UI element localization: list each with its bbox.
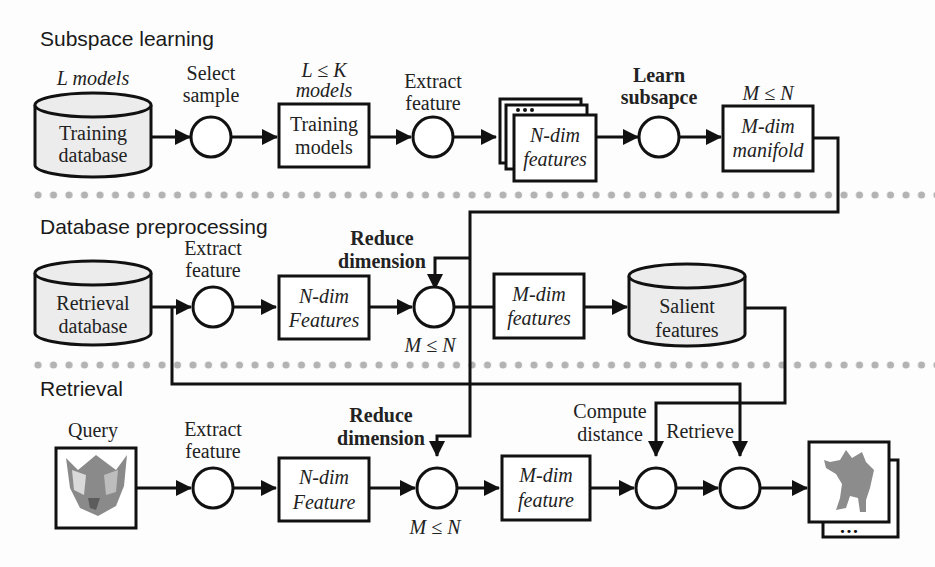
svg-text:L ≤ K: L ≤ K xyxy=(300,59,348,81)
mdim-manifold-box: M ≤ N M-dim manifold xyxy=(723,82,813,171)
select-sample-node: Select sample xyxy=(183,62,240,157)
svg-text:dimension: dimension xyxy=(338,250,426,272)
svg-text:N-dim: N-dim xyxy=(298,285,349,307)
retrieve-node: Retrieve xyxy=(666,420,760,508)
training-models-box: L ≤ K models Training models xyxy=(279,59,369,167)
svg-text:M ≤ N: M ≤ N xyxy=(742,82,796,104)
svg-text:Extract: Extract xyxy=(404,70,462,92)
extract-feature-node-2: Extract feature xyxy=(184,237,242,327)
svg-text:feature: feature xyxy=(185,259,241,281)
svg-text:Retrieve: Retrieve xyxy=(666,420,734,442)
retrieval-database: Retrieval database xyxy=(35,261,151,345)
svg-text:M ≤ N: M ≤ N xyxy=(409,516,463,538)
svg-text:Extract: Extract xyxy=(184,237,242,259)
svg-text:M-dim: M-dim xyxy=(518,464,572,486)
svg-text:features: features xyxy=(655,319,719,341)
svg-text:L models: L models xyxy=(56,67,130,89)
ndim-feature-box: N-dim Feature xyxy=(279,458,369,521)
svg-text:feature: feature xyxy=(405,92,461,114)
svg-text:Training: Training xyxy=(290,113,358,136)
svg-text:M ≤ N: M ≤ N xyxy=(404,334,458,356)
ndim-features-box: N-dim Features xyxy=(279,276,369,339)
svg-text:Salient: Salient xyxy=(659,295,715,317)
svg-text:Learn: Learn xyxy=(633,64,685,86)
extract-feature-node-3: Extract feature xyxy=(184,418,242,508)
svg-text:Compute: Compute xyxy=(573,400,646,423)
svg-text:subsapce: subsapce xyxy=(621,86,698,109)
retrieved-results-stack: ••• xyxy=(809,442,898,538)
svg-text:M-dim: M-dim xyxy=(740,115,794,137)
mdim-features-box: M-dim features xyxy=(494,274,584,338)
svg-text:features: features xyxy=(523,148,587,171)
svg-text:Reduce: Reduce xyxy=(350,227,413,249)
svg-text:models: models xyxy=(295,136,353,158)
svg-text:features: features xyxy=(507,307,571,330)
svg-text:Training: Training xyxy=(59,122,127,145)
svg-text:•••: ••• xyxy=(839,525,858,538)
training-database: L models Training database xyxy=(35,67,151,177)
section-title-preprocessing: Database preprocessing xyxy=(40,215,268,238)
query-model: Query xyxy=(56,419,136,528)
svg-text:M-dim: M-dim xyxy=(511,283,565,305)
learn-subspace-node: Learn subsapce xyxy=(621,64,698,157)
divider-1 xyxy=(30,190,935,200)
svg-text:Reduce: Reduce xyxy=(349,404,412,426)
salient-features-db: Salient features xyxy=(629,264,745,346)
extract-feature-node-1: Extract feature xyxy=(404,70,462,157)
ndim-features-stack: N-dim features xyxy=(500,99,596,181)
section-title-retrieval: Retrieval xyxy=(40,377,123,400)
svg-text:feature: feature xyxy=(185,440,241,462)
svg-text:N-dim: N-dim xyxy=(529,124,580,146)
svg-text:Extract: Extract xyxy=(184,418,242,440)
svg-text:Features: Features xyxy=(288,309,360,331)
svg-text:Feature: Feature xyxy=(292,491,356,513)
section-title-subspace: Subspace learning xyxy=(40,27,214,50)
mdim-feature-box: M-dim feature xyxy=(502,456,590,520)
svg-text:Retrieval: Retrieval xyxy=(56,292,130,314)
svg-text:Query: Query xyxy=(68,419,118,442)
svg-text:manifold: manifold xyxy=(732,139,804,162)
svg-text:feature: feature xyxy=(518,489,574,512)
svg-text:database: database xyxy=(59,315,128,337)
svg-text:distance: distance xyxy=(577,423,643,445)
svg-text:sample: sample xyxy=(183,84,240,107)
divider-2 xyxy=(30,360,935,370)
svg-text:models: models xyxy=(296,79,353,101)
pipeline-diagram: Subspace learning Database preprocessing… xyxy=(0,0,935,567)
svg-text:dimension: dimension xyxy=(337,427,425,449)
svg-text:N-dim: N-dim xyxy=(298,466,349,488)
svg-text:database: database xyxy=(59,144,128,166)
svg-text:Select: Select xyxy=(187,62,236,84)
